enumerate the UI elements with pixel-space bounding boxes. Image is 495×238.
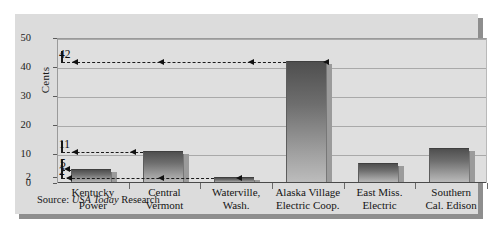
annotation-line-2 bbox=[62, 178, 214, 179]
annotation-arrowhead-42-1 bbox=[158, 59, 164, 65]
gridline-30 bbox=[58, 97, 486, 98]
figure-shadow-bottom bbox=[19, 214, 483, 219]
gridline-20 bbox=[58, 126, 486, 127]
source-note: Source: USA Today Research bbox=[37, 194, 160, 205]
x-axis-label-line: Wash. bbox=[200, 199, 272, 212]
annotation-arrowhead-42-0 bbox=[72, 59, 78, 65]
bar-side-5 bbox=[469, 151, 475, 183]
bar-3[interactable] bbox=[286, 61, 326, 183]
source-suffix: Research bbox=[121, 194, 159, 205]
annotation-arrowhead-2-1 bbox=[158, 175, 164, 181]
gridline-40 bbox=[58, 68, 486, 69]
bar-4[interactable] bbox=[358, 163, 398, 183]
y-tick-label-10: 10 bbox=[7, 149, 31, 160]
annotation-arrowhead-2-2 bbox=[236, 175, 242, 181]
bar-5[interactable] bbox=[429, 148, 469, 183]
x-axis-label-5: SouthernCal. Edison bbox=[415, 186, 487, 212]
x-axis-label-line: Southern bbox=[415, 186, 487, 199]
plot-area: 421125 bbox=[57, 38, 487, 183]
annotation-arrowhead-42-2 bbox=[248, 59, 254, 65]
gridline-50 bbox=[58, 39, 486, 40]
bar-side-3 bbox=[326, 64, 332, 183]
bar-side-4 bbox=[398, 166, 404, 183]
x-axis-label-line: Electric bbox=[344, 199, 416, 212]
source-prefix: Source: bbox=[37, 194, 69, 205]
gridline-10 bbox=[58, 155, 486, 156]
source-publication: USA Today bbox=[72, 194, 119, 205]
y-tick-label-2: 2 bbox=[7, 172, 31, 183]
category-tick-6 bbox=[487, 183, 488, 189]
y-tick-mark-0 bbox=[53, 183, 57, 184]
annotation-arrowhead-11-0 bbox=[72, 149, 78, 155]
x-axis-label-3: Alaska VillageElectric Coop. bbox=[272, 186, 344, 212]
annotation-value-11: 11 bbox=[59, 139, 70, 151]
y-axis-label: Cents bbox=[39, 45, 51, 115]
x-axis-label-line: Alaska Village bbox=[272, 186, 344, 199]
x-axis-label-line: Waterville, bbox=[200, 186, 272, 199]
annotation-arrowhead-2-0 bbox=[66, 175, 72, 181]
y-tick-label-20: 20 bbox=[7, 120, 31, 131]
annotation-value-5: 5 bbox=[60, 158, 66, 170]
x-axis-label-line: Electric Coop. bbox=[272, 199, 344, 212]
chart-figure: Cents 021020304050 421125 KentuckyPowerC… bbox=[15, 14, 478, 214]
x-axis-label-2: Waterville,Wash. bbox=[200, 186, 272, 212]
x-axis-label-line: East Miss. bbox=[344, 186, 416, 199]
x-axis-label-4: East Miss.Electric bbox=[344, 186, 416, 212]
y-tick-label-40: 40 bbox=[7, 62, 31, 73]
bar-0[interactable] bbox=[71, 169, 111, 184]
y-tick-label-50: 50 bbox=[7, 33, 31, 44]
y-tick-label-30: 30 bbox=[7, 91, 31, 102]
annotation-arrowhead-42-3 bbox=[323, 59, 329, 65]
x-axis-label-line: Cal. Edison bbox=[415, 199, 487, 212]
annotation-arrowhead-11-1 bbox=[130, 149, 136, 155]
annotation-value-42: 42 bbox=[59, 49, 71, 61]
